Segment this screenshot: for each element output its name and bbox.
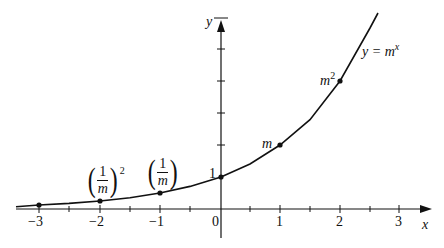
point-label-inverse-m: ( 1m ): [146, 155, 180, 189]
x-tick-label: −3: [28, 215, 43, 229]
graph-canvas: [0, 0, 444, 248]
x-tick-label: 1: [276, 215, 283, 229]
x-tick-label: 2: [336, 215, 343, 229]
y-axis-arrow-icon: [217, 20, 225, 32]
x-tick-label: 3: [395, 215, 402, 229]
exponential-curve: [16, 13, 378, 207]
x-tick-label: −2: [89, 215, 104, 229]
point-label-one: 1: [209, 167, 216, 181]
x-tick-label: −1: [149, 215, 164, 229]
x-tick-label: 0: [212, 215, 219, 229]
point-label-m-squared: m2: [320, 71, 335, 88]
point-label-inverse-m-squared: ( 1m ) 2: [86, 163, 125, 197]
curve-label: y = mx: [362, 42, 399, 59]
curve-points: [36, 78, 342, 207]
point-label-m: m: [262, 137, 272, 151]
x-axis-label: x: [422, 218, 428, 232]
x-axis-arrow-icon: [420, 205, 432, 213]
y-axis-label: y: [206, 15, 212, 29]
